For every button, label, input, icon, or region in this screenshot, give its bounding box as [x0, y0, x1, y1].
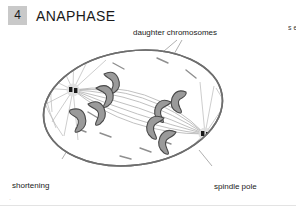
- cut-off-side-text: s e c t i o n: [288, 22, 296, 33]
- label-line-2: kinetochore: [12, 210, 53, 213]
- label-line-2: moving outward: [214, 211, 270, 213]
- corner-mark: ·: [9, 196, 11, 202]
- cell-membrane: [36, 39, 230, 177]
- label-daughter-chromosomes: daughter chromosomes: [133, 28, 217, 38]
- spindle-pole-right: [199, 128, 212, 141]
- bottom-divider: [0, 205, 296, 206]
- label-line-1: spindle pole: [214, 182, 270, 192]
- label-line-1: shortening: [12, 181, 53, 191]
- anaphase-figure-page: 4 ANAPHASE: [0, 0, 296, 212]
- spindle-pole-left: [67, 84, 80, 97]
